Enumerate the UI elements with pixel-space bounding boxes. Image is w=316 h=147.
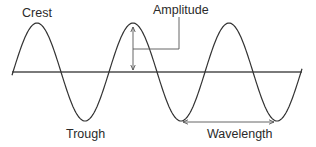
crest-label: Crest [22,7,52,20]
wave-diagram-canvas [0,0,316,147]
trough-label: Trough [66,128,105,141]
wavelength-label: Wavelength [207,128,273,141]
amplitude-label: Amplitude [153,4,209,17]
amplitude-leader-line [133,17,179,49]
